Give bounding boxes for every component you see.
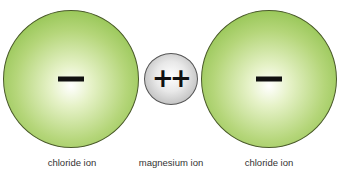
minus-charge-icon [256, 77, 282, 82]
chloride-ion-right-label: chloride ion [245, 157, 294, 168]
chloride-ion-left [3, 10, 139, 148]
chloride-ion-left-label: chloride ion [48, 157, 97, 168]
magnesium-ion-label: magnesium ion [139, 157, 203, 168]
plus-charge-icon: + [170, 65, 192, 91]
minus-charge-icon [58, 77, 84, 82]
magnesium-ion: + + [144, 53, 198, 105]
chloride-ion-right [201, 10, 337, 148]
